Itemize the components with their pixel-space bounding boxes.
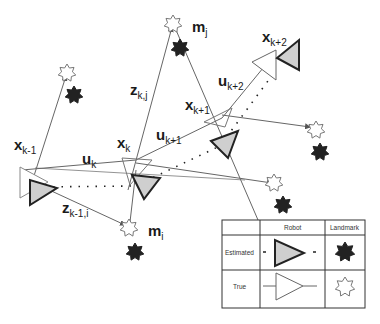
estimated-landmark-left	[65, 86, 83, 103]
label-u-kp1: uk+1	[156, 126, 182, 146]
true-landmark-mi	[120, 219, 138, 236]
estimated-landmark-mi	[126, 243, 144, 260]
true-robot-xkp2	[252, 50, 276, 80]
svg-text:uk+2: uk+2	[218, 72, 244, 92]
true-landmark-mj	[164, 15, 182, 32]
label-z-kj: zk,j	[130, 81, 148, 101]
svg-text:mj: mj	[192, 18, 208, 38]
label-x-kp1: xk+1	[185, 96, 210, 116]
estimated-robot-xkp1	[211, 131, 238, 158]
true-landmark-left	[58, 64, 76, 81]
true-landmark-bottomright	[265, 174, 283, 191]
estimated-landmark-bottomright	[274, 196, 292, 213]
label-x-km1: xk-1	[14, 136, 37, 156]
legend-row-estimated: Estimated	[225, 249, 254, 256]
estimated-robot-xk	[132, 175, 160, 199]
label-x-kp2: xk+2	[262, 28, 287, 48]
label-m-j: mj	[192, 18, 208, 38]
svg-text:uk: uk	[82, 150, 97, 170]
svg-text:xk: xk	[117, 134, 131, 154]
observation-line-xkp1-right	[222, 115, 310, 127]
label-m-i: mi	[148, 222, 164, 242]
legend-row-true: True	[233, 283, 247, 290]
true-landmark-right	[307, 121, 325, 138]
label-u-k: uk	[82, 150, 97, 170]
svg-text:uk+1: uk+1	[156, 126, 182, 146]
label-u-kp2: uk+2	[218, 72, 244, 92]
estimated-robot-xkm1	[30, 180, 57, 205]
svg-text:xk-1: xk-1	[14, 136, 37, 156]
svg-text:mi: mi	[148, 222, 164, 242]
svg-text:xk+2: xk+2	[262, 28, 287, 48]
label-x-k: xk	[117, 134, 131, 154]
svg-text:zk,j: zk,j	[130, 81, 148, 101]
legend: Robot Landmark Estimated True	[222, 220, 365, 308]
legend-header-robot: Robot	[284, 224, 302, 231]
svg-text:xk+1: xk+1	[185, 96, 210, 116]
estimated-landmark-right	[311, 143, 329, 160]
legend-header-landmark: Landmark	[330, 224, 360, 231]
slam-diagram: xk-1 xk xk+1 xk+2 uk uk+1 uk+2 zk,j zk-1…	[0, 0, 380, 324]
